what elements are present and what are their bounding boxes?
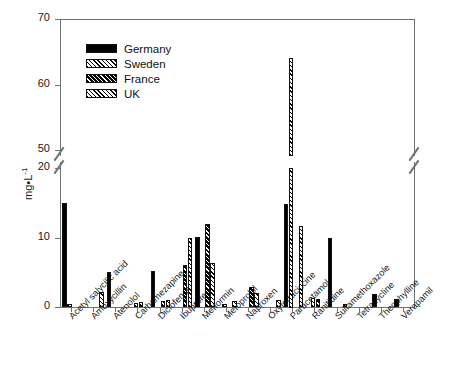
y-tick-label: 0 (20, 299, 50, 311)
legend-label: France (124, 73, 160, 85)
y-tick-label: 70 (20, 11, 50, 23)
y-tick-label: 50 (20, 142, 50, 154)
y-tick-label: 10 (20, 230, 50, 242)
legend-item: UK (86, 87, 171, 100)
bar-germany (284, 204, 288, 307)
y-axis-label: mg•L-1 (20, 168, 34, 200)
legend-label: UK (124, 88, 140, 100)
bar-germany (62, 203, 66, 307)
bar-sweden (222, 304, 226, 307)
legend-label: Sweden (124, 58, 166, 70)
bar-germany (151, 271, 155, 307)
chart-legend: GermanySwedenFranceUK (86, 42, 171, 102)
legend-label: Germany (124, 43, 171, 55)
bar-germany (195, 237, 199, 307)
bar-germany (394, 299, 398, 307)
bar-sweden (67, 304, 71, 307)
bar-sweden-upper (289, 58, 293, 156)
bar-germany (107, 272, 111, 307)
legend-swatch-sweden (86, 59, 117, 68)
bar-sweden (289, 168, 293, 308)
legend-item: Sweden (86, 57, 171, 70)
legend-item: France (86, 72, 171, 85)
legend-item: Germany (86, 42, 171, 55)
bar-france (205, 224, 209, 307)
bar-sweden (311, 298, 315, 307)
y-axis-label-text: mg•L (22, 175, 34, 200)
bar-uk (299, 226, 303, 307)
bar-germany (372, 294, 376, 307)
bar-france (183, 265, 187, 307)
bar-germany (328, 238, 332, 308)
bar-uk (188, 238, 192, 308)
legend-swatch-germany (86, 44, 117, 53)
legend-swatch-france (86, 74, 117, 83)
y-tick-label: 60 (20, 77, 50, 89)
bar-chart: 50607001020mg•L-1GermanySwedenFranceUKAc… (0, 0, 455, 389)
axis-break-mark (54, 160, 65, 174)
y-axis-label-exponent: -1 (20, 168, 29, 175)
bar-sweden (134, 303, 138, 307)
legend-swatch-uk (86, 89, 117, 98)
